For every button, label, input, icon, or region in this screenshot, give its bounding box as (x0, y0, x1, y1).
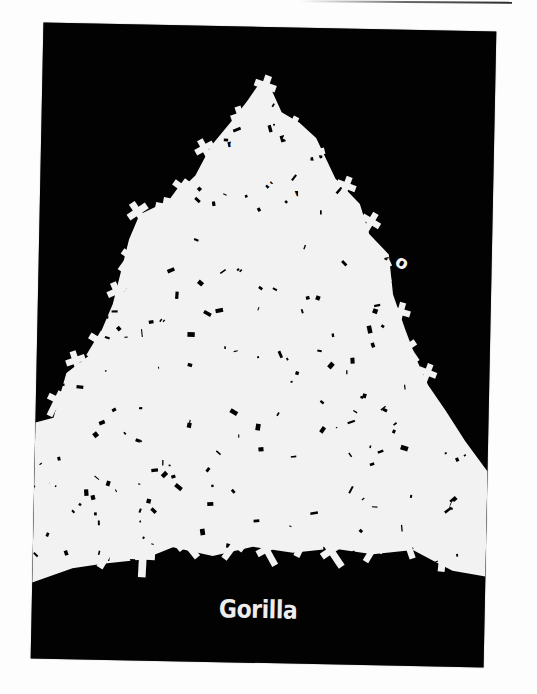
scan-edge-line (300, 0, 512, 3)
poster: Saddamo Gorilla (31, 23, 497, 668)
cross-pile-artwork: Saddamo (31, 23, 497, 668)
page: Saddamo Gorilla (0, 0, 537, 694)
scattered-letter: o (392, 250, 413, 274)
